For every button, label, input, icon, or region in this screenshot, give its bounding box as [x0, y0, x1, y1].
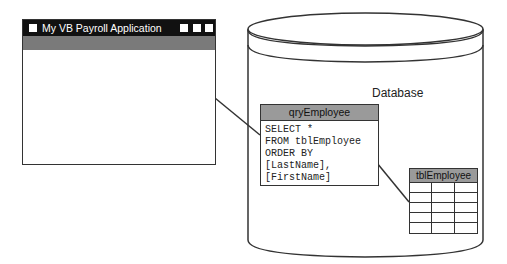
- window-menubar: [23, 36, 215, 50]
- database-cylinder-top: [248, 13, 483, 45]
- table-cell: [455, 223, 477, 233]
- query-sql: SELECT * FROM tblEmployee ORDER BY [Last…: [261, 121, 378, 184]
- window-title: My VB Payroll Application: [42, 20, 162, 36]
- window-titlebar[interactable]: My VB Payroll Application: [23, 20, 215, 36]
- table-cell: [432, 213, 454, 223]
- table-cell: [455, 203, 477, 213]
- table-box: tblEmployee: [409, 168, 478, 234]
- app-window: My VB Payroll Application: [22, 19, 216, 165]
- maximize-icon[interactable]: [193, 24, 201, 32]
- table-cell: [410, 193, 432, 203]
- query-name: qryEmployee: [261, 105, 378, 121]
- table-cell: [455, 183, 477, 193]
- database-band-2: [248, 45, 483, 62]
- table-cell: [455, 193, 477, 203]
- table-name: tblEmployee: [410, 169, 477, 183]
- connector-query-to-table: [377, 163, 409, 202]
- table-cell: [432, 193, 454, 203]
- connector-app-to-query: [215, 98, 260, 135]
- table-cell: [410, 183, 432, 193]
- table-cell: [432, 183, 454, 193]
- query-box: qryEmployee SELECT * FROM tblEmployee OR…: [260, 104, 379, 186]
- system-menu-icon[interactable]: [29, 24, 37, 32]
- table-cell: [432, 203, 454, 213]
- table-cell: [410, 213, 432, 223]
- table-cell: [432, 223, 454, 233]
- database-label: Database: [372, 86, 423, 100]
- table-grid: [410, 183, 477, 233]
- minimize-icon[interactable]: [180, 24, 188, 32]
- table-cell: [410, 203, 432, 213]
- table-cell: [455, 213, 477, 223]
- table-cell: [410, 223, 432, 233]
- close-icon[interactable]: [205, 24, 213, 32]
